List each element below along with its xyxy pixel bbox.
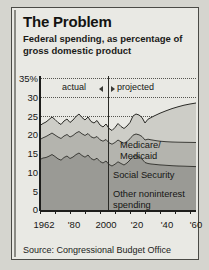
x-tick-label-2060: '60 [190, 219, 202, 230]
annotation-actual: actual [62, 82, 86, 92]
x-axis-line [40, 210, 196, 212]
area-label-social-security: Social Security [113, 170, 175, 181]
infographic-figure: The Problem Federal spending, as percent… [0, 0, 209, 270]
area-label-medicare-line1: Medicare/ [120, 140, 161, 151]
x-tick-1982 [70, 210, 71, 214]
x-tick-label-2040: '40 [161, 219, 173, 230]
y-tick-label-35: 35% [19, 73, 38, 84]
x-tick-2052 [175, 210, 176, 214]
y-tick-label-15: 15 [27, 148, 38, 159]
x-tick-label-2020: '20 [131, 219, 143, 230]
y-tick-label-5: 5 [33, 186, 38, 197]
area-label-medicare-medicaid: Medicare/ Medicaid [120, 140, 161, 162]
triangle-left-icon [99, 86, 103, 92]
area-label-other-line1: Other noninterest [113, 189, 185, 200]
x-tick-label-1962: 1962 [33, 219, 54, 230]
x-tick-2062 [190, 210, 191, 214]
y-axis-line [39, 76, 41, 211]
x-tick-2042 [160, 210, 161, 214]
annotation-projected: projected [117, 82, 154, 92]
x-tick-1962 [40, 210, 41, 214]
area-label-other-noninterest: Other noninterest spending [113, 189, 185, 211]
x-axis-labels: 1962 '80 2000 '20 '40 '60 [20, 219, 206, 233]
actual-projected-divider [108, 76, 109, 210]
source-note: Source: Congressional Budget Office [23, 245, 171, 255]
x-tick-2022 [130, 210, 131, 214]
page-title: The Problem [23, 13, 112, 30]
y-tick-label-20: 20 [27, 129, 38, 140]
y-axis-labels: 35% 30 25 20 15 10 5 0 [14, 70, 38, 216]
y-tick-label-10: 10 [27, 167, 38, 178]
x-tick-2032 [145, 210, 146, 214]
x-tick-label-1980: '80 [68, 219, 80, 230]
x-tick-2002 [100, 210, 101, 214]
x-tick-label-2000: 2000 [95, 219, 116, 230]
x-tick-1972 [55, 210, 56, 214]
y-tick-label-30: 30 [27, 92, 38, 103]
figure-subtitle: Federal spending, as percentage of gross… [23, 33, 195, 56]
x-tick-2012 [115, 210, 116, 214]
y-tick-label-0: 0 [33, 204, 38, 215]
y-tick-label-25: 25 [27, 111, 38, 122]
area-label-medicare-line2: Medicaid [120, 151, 161, 162]
x-tick-1992 [85, 210, 86, 214]
triangle-right-icon [111, 86, 115, 92]
